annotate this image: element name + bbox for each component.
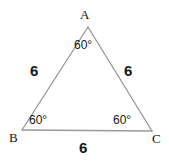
angle-label-a: 60°: [74, 39, 92, 51]
side-length-label-ab: 6: [30, 63, 38, 78]
vertex-label-a: A: [80, 8, 89, 21]
side-length-label-ac: 6: [124, 63, 132, 78]
vertex-label-c: C: [152, 132, 161, 145]
side-length-label-bc: 6: [79, 140, 87, 155]
triangle-side-bc: [22, 130, 152, 131]
angle-label-c: 60°: [113, 114, 131, 126]
vertex-label-b: B: [9, 131, 18, 144]
geometry-figure: A B C 60° 60° 60° 6 6 6: [0, 0, 169, 167]
angle-label-b: 60°: [29, 114, 47, 126]
